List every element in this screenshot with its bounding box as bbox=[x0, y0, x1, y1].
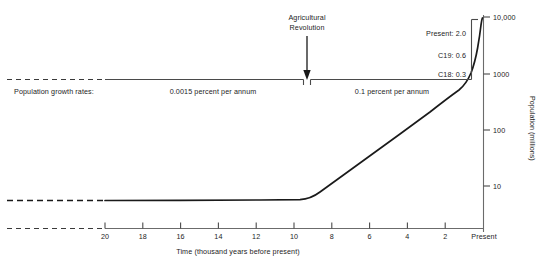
agricultural-revolution-arrow bbox=[303, 36, 310, 80]
y-tick-label-10: 10 bbox=[493, 182, 501, 191]
x-tick-label-16: 16 bbox=[176, 232, 184, 241]
x-axis-ticks bbox=[105, 223, 445, 229]
x-tick-label-present: Present bbox=[471, 232, 496, 241]
population-curve bbox=[105, 18, 482, 201]
growth-rate-right-label: 0.1 percent per annum bbox=[355, 87, 429, 96]
x-tick-label-8: 8 bbox=[330, 232, 334, 241]
growth-band-left-segment bbox=[105, 80, 304, 86]
y-tick-label-10000: 10,000 bbox=[493, 13, 516, 22]
x-axis-title: Time (thousand years before present) bbox=[176, 247, 300, 256]
x-tick-label-10: 10 bbox=[290, 232, 298, 241]
growth-band-right-segment bbox=[311, 80, 472, 86]
growth-rate-left-label: 0.0015 percent per annum bbox=[170, 87, 257, 96]
growth-rates-caption: Population growth rates: bbox=[14, 87, 94, 96]
population-growth-chart bbox=[0, 0, 548, 271]
y-tick-label-100: 100 bbox=[493, 126, 505, 135]
c19-value-label: C19: 0.6 bbox=[438, 51, 466, 60]
x-tick-label-6: 6 bbox=[368, 232, 372, 241]
y-tick-label-1000: 1000 bbox=[493, 70, 509, 79]
y-axis-title: Population (millions) bbox=[528, 96, 537, 161]
agricultural-revolution-label-line1: Agricultural bbox=[288, 13, 325, 23]
c18-value-label: C18: 0.3 bbox=[438, 70, 466, 79]
x-tick-label-2: 2 bbox=[443, 232, 447, 241]
y-axis-ticks bbox=[484, 17, 491, 186]
x-tick-label-18: 18 bbox=[139, 232, 147, 241]
x-tick-label-14: 14 bbox=[214, 232, 222, 241]
agricultural-revolution-label-line2: Revolution bbox=[290, 23, 325, 33]
x-tick-label-20: 20 bbox=[101, 232, 109, 241]
x-tick-label-12: 12 bbox=[252, 232, 260, 241]
present-value-label: Present: 2.0 bbox=[426, 29, 466, 38]
x-tick-label-4: 4 bbox=[405, 232, 409, 241]
